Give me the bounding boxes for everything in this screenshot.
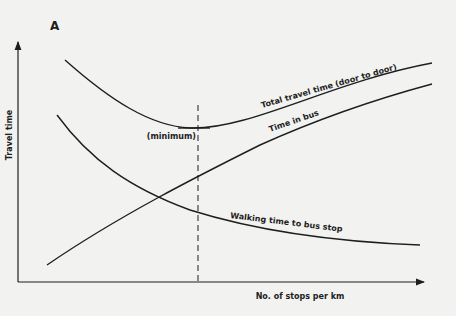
time-in-bus-curve [47,84,432,265]
walking-time-label: Walking time to bus stop [230,211,343,234]
minimum-annotation: (minimum) [147,132,196,141]
y-axis-label: Travel time [5,109,14,160]
walking-time-curve [57,115,420,245]
x-axis-label: No. of stops per km [256,292,345,301]
travel-time-chart: A Travel time No. of stops per km Total … [0,0,456,316]
total-travel-time-label: Total travel time (door to door) [260,63,398,110]
panel-label: A [50,19,60,33]
